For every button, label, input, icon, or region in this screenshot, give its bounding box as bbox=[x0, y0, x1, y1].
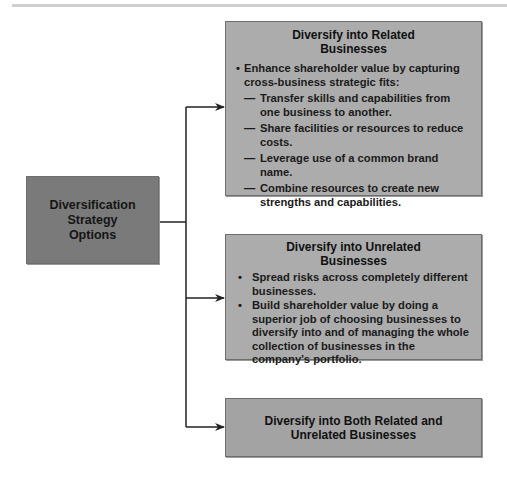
option-node-related: Diversify into Related Businesses • Enha… bbox=[225, 21, 482, 196]
bullet-icon: • bbox=[236, 62, 240, 76]
root-node-title: Diversification Strategy Options bbox=[43, 198, 143, 243]
option-title-related: Diversify into Related Businesses bbox=[264, 28, 444, 56]
sub-item-text: Leverage use of a common brand name. bbox=[260, 152, 438, 178]
dash-icon: — bbox=[244, 122, 255, 136]
bullet-icon: • bbox=[238, 299, 242, 313]
sub-item-text: Combine resources to create new strength… bbox=[260, 182, 439, 208]
option-node-unrelated: Diversify into Unrelated Businesses • Sp… bbox=[225, 234, 482, 360]
dash-icon: — bbox=[244, 182, 255, 196]
sub-item-text: Transfer skills and capabilities from on… bbox=[260, 92, 450, 118]
option-title-both: Diversify into Both Related and Unrelate… bbox=[254, 414, 454, 442]
bullet-item: • Enhance shareholder value by capturing… bbox=[236, 62, 471, 89]
sub-item: — Share facilities or resources to reduc… bbox=[236, 122, 471, 149]
bullet-text: Spread risks across completely different… bbox=[252, 271, 468, 297]
option-node-both: Diversify into Both Related and Unrelate… bbox=[225, 398, 482, 457]
sub-item-text: Share facilities or resources to reduce … bbox=[260, 122, 463, 148]
dash-icon: — bbox=[244, 152, 255, 166]
sub-item: — Combine resources to create new streng… bbox=[236, 182, 471, 209]
root-node-diversification-options: Diversification Strategy Options bbox=[26, 176, 159, 264]
bullet-text: Build shareholder value by doing a super… bbox=[252, 299, 469, 365]
sub-item: — Transfer skills and capabilities from … bbox=[236, 92, 471, 119]
bullet-item: • Spread risks across completely differe… bbox=[236, 271, 471, 298]
option-title-unrelated: Diversify into Unrelated Businesses bbox=[264, 240, 444, 268]
dash-icon: — bbox=[244, 92, 255, 106]
bullet-text: Enhance shareholder value by capturing c… bbox=[244, 62, 460, 88]
bullet-item: • Build shareholder value by doing a sup… bbox=[236, 299, 471, 367]
sub-item: — Leverage use of a common brand name. bbox=[236, 152, 471, 179]
bullet-icon: • bbox=[238, 271, 242, 285]
